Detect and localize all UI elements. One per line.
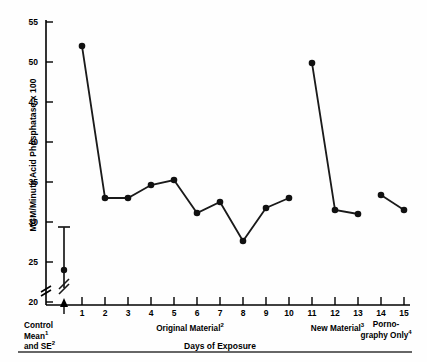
porn-line-1: Porno- <box>344 320 427 331</box>
series-original-material-points <box>79 43 293 245</box>
x-tick-label-14: 14 <box>371 308 391 318</box>
control-mean-point <box>61 267 67 273</box>
porn-line-2-text: graphy Only <box>360 331 408 340</box>
x-tick-label-7: 7 <box>210 308 230 318</box>
porn-line-2: graphy Only4 <box>344 331 427 342</box>
x-tick-label-5: 5 <box>164 308 184 318</box>
series-new-material-points <box>309 60 362 218</box>
group-label-pornography-only: Porno- graphy Only4 <box>344 320 427 341</box>
x-tick-label-2: 2 <box>95 308 115 318</box>
x-tick-label-4: 4 <box>141 308 161 318</box>
x-axis-ticks <box>82 297 404 305</box>
y-tick-label-25: 25 <box>16 257 38 267</box>
group-label-original-material: Original Material2 <box>125 324 255 335</box>
original-material-text: Original Material <box>156 324 220 333</box>
y-tick-label-50: 50 <box>16 57 38 67</box>
control-line-3: and SE2 <box>24 342 104 353</box>
x-tick-label-1: 1 <box>72 308 92 318</box>
control-line-3-text: and SE <box>24 342 52 351</box>
series-new-material-line <box>312 63 358 214</box>
y-tick-label-35: 35 <box>16 177 38 187</box>
x-tick-label-11: 11 <box>302 308 322 318</box>
x-tick-label-15: 15 <box>394 308 414 318</box>
y-tick-label-20: 20 <box>16 297 38 307</box>
x-tick-label-9: 9 <box>256 308 276 318</box>
series-original-material-line <box>82 46 289 241</box>
x-tick-label-3: 3 <box>118 308 138 318</box>
y-tick-label-40: 40 <box>16 137 38 147</box>
control-line-2-sup: 1 <box>45 330 48 336</box>
control-line-2-text: Mean <box>24 332 45 341</box>
x-tick-label-12: 12 <box>325 308 345 318</box>
y-axis-ticks <box>46 22 53 302</box>
porn-line-2-sup: 4 <box>408 329 411 335</box>
series-pornography-only-line <box>381 195 404 210</box>
y-tick-label-55: 55 <box>16 17 38 27</box>
x-tick-label-10: 10 <box>279 308 299 318</box>
control-line-2: Mean1 <box>24 332 104 343</box>
control-line-1: Control <box>24 321 104 332</box>
x-tick-label-6: 6 <box>187 308 207 318</box>
x-tick-label-13: 13 <box>348 308 368 318</box>
control-line-3-sup: 2 <box>52 340 55 346</box>
control-marker-arrow <box>60 298 68 314</box>
group-label-control: Control Mean1 and SE2 <box>24 321 104 353</box>
original-material-sup: 2 <box>220 322 223 328</box>
figure-container: MGM/Minute Acid Phosphatase x 100 55 50 … <box>0 0 427 362</box>
x-tick-label-8: 8 <box>233 308 253 318</box>
x-axis-title: Days of Exposure <box>150 341 290 351</box>
y-tick-label-45: 45 <box>16 97 38 107</box>
y-tick-label-30: 30 <box>16 217 38 227</box>
